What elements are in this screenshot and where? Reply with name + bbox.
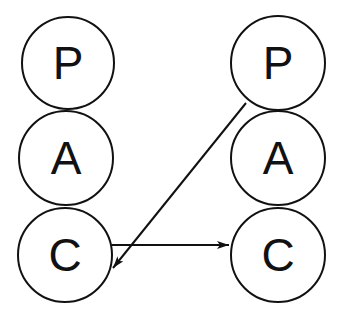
left-node-a-label: A: [51, 132, 82, 184]
right-stack: P A C: [231, 16, 325, 302]
right-node-c-label: C: [261, 229, 294, 281]
left-stack: P A C: [18, 17, 114, 302]
pac-diagram: P A C P A C: [0, 0, 348, 323]
left-node-c-label: C: [48, 229, 81, 281]
right-node-p-label: P: [263, 37, 294, 89]
left-node-p: P: [22, 17, 114, 109]
right-node-p: P: [231, 16, 325, 110]
left-node-c: C: [18, 208, 112, 302]
left-node-a: A: [19, 111, 113, 205]
right-node-a-label: A: [263, 132, 294, 184]
right-node-c: C: [231, 208, 325, 302]
left-node-p-label: P: [53, 37, 84, 89]
right-node-a: A: [231, 111, 325, 205]
arrow-right-p-to-left-c: [113, 103, 246, 268]
